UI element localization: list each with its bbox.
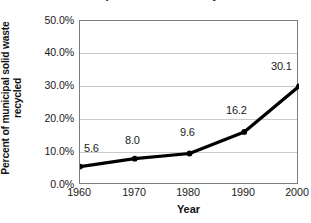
data-label-2000: 30.1 [271,60,292,72]
data-label-1970: 8.0 [125,134,140,146]
x-tick-label-1980: 1980 [158,186,218,198]
x-tick-label-1970: 1970 [104,186,164,198]
data-label-1960: 5.6 [84,142,99,154]
x-tick-label-1960: 1960 [49,186,109,198]
chart-container: Municipal Solid Waste Recycled Percent o… [0,0,311,223]
x-axis-title: Year [79,203,298,215]
data-label-1990: 16.2 [226,104,247,116]
x-axis-tick-labels: 1960 1970 1980 1990 2000 [0,186,311,204]
x-tick-label-2000: 2000 [267,186,311,198]
x-tick-label-1990: 1990 [213,186,273,198]
data-label-1980: 9.6 [180,126,195,138]
